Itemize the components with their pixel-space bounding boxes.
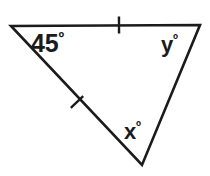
angle-label-top-left: 45º [31, 30, 64, 56]
angle-label-top-right: yº [161, 33, 178, 56]
triangle-svg [0, 0, 210, 176]
triangle-figure: 45º yº xº [0, 0, 210, 176]
angle-value-bottom: x [124, 119, 136, 144]
angle-label-bottom: xº [124, 120, 141, 143]
degree-symbol-top-left: º [58, 29, 64, 46]
angle-value-top-left: 45 [31, 29, 58, 57]
angle-value-top-right: y [161, 32, 173, 57]
degree-symbol-bottom: º [136, 119, 141, 134]
degree-symbol-top-right: º [173, 32, 178, 47]
